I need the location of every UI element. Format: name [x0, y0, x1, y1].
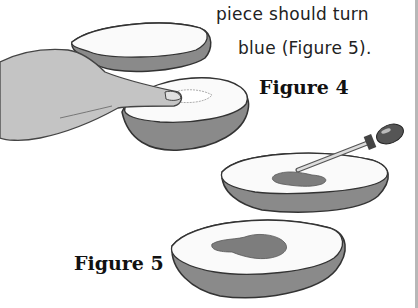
textbook-page: piece should turn blue (Figure 5). Figur… — [0, 0, 418, 308]
body-text-line-1: piece should turn — [216, 4, 369, 24]
figure-4-label: Figure 4 — [259, 76, 349, 98]
figure-5-label: Figure 5 — [74, 252, 164, 274]
potato-stained-icon — [172, 220, 346, 297]
potato-dropper-icon — [221, 153, 388, 212]
body-text-line-2: blue (Figure 5). — [238, 38, 372, 58]
